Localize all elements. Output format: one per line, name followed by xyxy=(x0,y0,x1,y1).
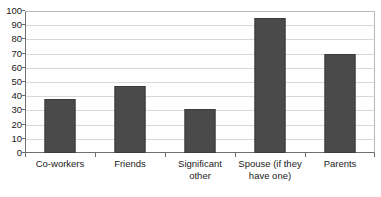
x-axis-tick-mark xyxy=(25,153,26,157)
y-axis-tick-label: 80 xyxy=(0,34,22,44)
x-axis-tick-mark xyxy=(305,153,306,157)
y-axis-tick-label: 100 xyxy=(0,6,22,16)
bar-parents[interactable] xyxy=(325,54,356,153)
x-axis-category-label-line: Parents xyxy=(324,158,357,169)
x-axis-tick-mark xyxy=(95,153,96,157)
x-axis-tick-mark xyxy=(165,153,166,157)
y-axis-tick-label: 40 xyxy=(0,91,22,101)
x-axis-category-label-line: Co-workers xyxy=(36,158,85,169)
y-axis-tick-label: 70 xyxy=(0,49,22,59)
x-axis-tick-mark xyxy=(235,153,236,157)
y-axis-tick-label: 10 xyxy=(0,134,22,144)
bar-slot xyxy=(165,11,235,153)
x-axis-category-label-line: other xyxy=(165,170,235,182)
bar-significant-other[interactable] xyxy=(185,109,216,153)
bar-slot xyxy=(235,11,305,153)
x-axis-category-label: Friends xyxy=(95,158,165,170)
bar-chart-figure: 0102030405060708090100 Co-workersFriends… xyxy=(0,0,381,197)
x-axis-category-label-line: Spouse (if they xyxy=(238,158,301,169)
x-axis-category-label-line: Significant xyxy=(178,158,222,169)
bar-slot xyxy=(95,11,165,153)
y-axis-tick-label: 30 xyxy=(0,105,22,115)
x-axis-category-label-line: have one) xyxy=(235,170,305,182)
y-axis-tick-label: 0 xyxy=(0,148,22,158)
bar-friends[interactable] xyxy=(115,86,146,153)
bar-co-workers[interactable] xyxy=(45,99,76,153)
bar-spouse-if-they-have-one[interactable] xyxy=(255,18,286,153)
y-axis-tick-label: 60 xyxy=(0,63,22,73)
y-axis-tick-label: 50 xyxy=(0,77,22,87)
x-axis-labels: Co-workersFriendsSignificantotherSpouse … xyxy=(25,158,375,196)
bar-slot xyxy=(305,11,375,153)
x-axis-category-label: Spouse (if theyhave one) xyxy=(235,158,305,182)
y-axis-tick-label: 20 xyxy=(0,120,22,130)
x-axis-category-label: Significantother xyxy=(165,158,235,182)
x-axis-category-label-line: Friends xyxy=(114,158,146,169)
bar-slot xyxy=(25,11,95,153)
y-axis-tick-label: 90 xyxy=(0,20,22,30)
x-axis-category-label: Parents xyxy=(305,158,375,170)
x-axis-tick-mark xyxy=(374,153,375,157)
x-axis-category-label: Co-workers xyxy=(25,158,95,170)
bars-layer xyxy=(25,11,375,153)
